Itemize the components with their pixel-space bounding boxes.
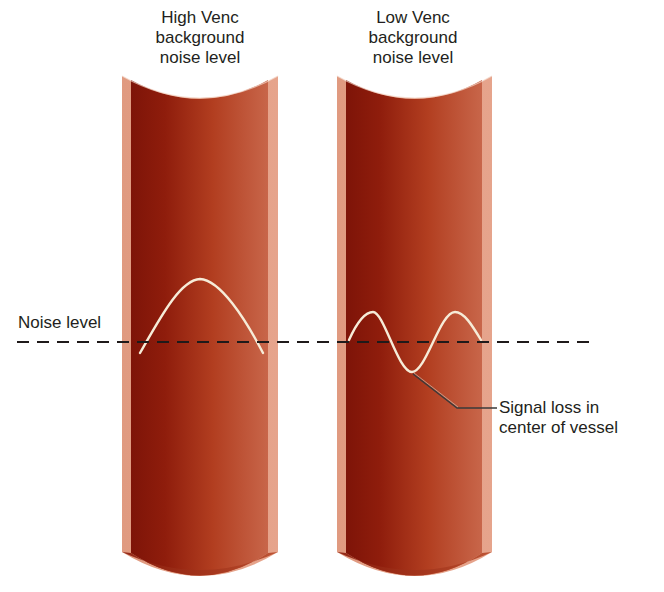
low-venc-title: Low Venc background noise level [343,8,483,68]
high-venc-title: High Venc background noise level [130,8,270,68]
venc-diagram [0,0,664,592]
vessel-low-venc [337,76,492,576]
signal-loss-line-1: Signal loss in [499,398,618,418]
vessel-high-venc [122,76,278,576]
noise-level-label: Noise level [18,313,101,333]
noise-level-text: Noise level [18,313,101,333]
low-venc-title-line-3: noise level [343,48,483,68]
low-venc-title-line-1: Low Venc [343,8,483,28]
high-venc-title-line-3: noise level [130,48,270,68]
high-venc-title-line-1: High Venc [130,8,270,28]
high-venc-title-line-2: background [130,28,270,48]
signal-loss-line-2: center of vessel [499,418,618,438]
low-venc-title-line-2: background [343,28,483,48]
signal-loss-annotation: Signal loss in center of vessel [499,398,618,438]
